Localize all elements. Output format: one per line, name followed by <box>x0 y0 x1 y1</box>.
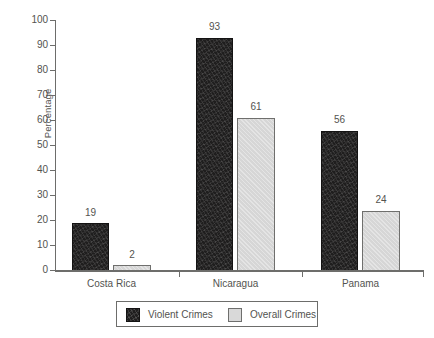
bar-chart: Percentage 100 90 80 70 60 50 40 30 20 1… <box>0 0 434 338</box>
y-axis-tick-label: 50 <box>18 139 48 150</box>
y-axis-tick <box>50 145 56 146</box>
legend-label: Violent Crimes <box>148 309 213 320</box>
x-axis-group-label-panama: Panama <box>321 278 400 289</box>
legend-swatch-light-icon <box>228 308 242 322</box>
bar-nicaragua-overall-crimes[interactable] <box>237 118 275 271</box>
bar-panama-overall-crimes[interactable] <box>362 211 400 271</box>
y-axis-tick-label: 100 <box>18 14 48 25</box>
legend-label: Overall Crimes <box>250 309 316 320</box>
bar-value-label: 93 <box>196 21 233 32</box>
legend-swatch-dark-icon <box>126 308 140 322</box>
y-axis-tick <box>50 70 56 71</box>
bar-value-label: 2 <box>113 249 151 260</box>
legend-item-violent-crimes[interactable]: Violent Crimes <box>126 307 213 322</box>
bar-value-label: 56 <box>321 114 358 125</box>
y-axis-tick-label: 30 <box>18 189 48 200</box>
y-axis-tick-label: 10 <box>18 239 48 250</box>
bar-costa-rica-violent-crimes[interactable] <box>72 223 109 271</box>
y-axis-tick <box>50 195 56 196</box>
y-axis-tick-label: 70 <box>18 89 48 100</box>
y-axis-tick-label: 20 <box>18 214 48 225</box>
bar-value-label: 61 <box>237 101 275 112</box>
y-axis-tick <box>50 220 56 221</box>
x-axis-tick <box>423 271 424 277</box>
y-axis-tick-label: 80 <box>18 64 48 75</box>
bar-value-label: 19 <box>72 207 109 218</box>
x-axis-tick <box>179 271 180 277</box>
y-axis-tick-label: 60 <box>18 114 48 125</box>
y-axis-tick <box>50 20 56 21</box>
y-axis-tick <box>50 45 56 46</box>
x-axis-group-label-costa-rica: Costa Rica <box>72 278 151 289</box>
y-axis-tick <box>50 170 56 171</box>
legend: Violent Crimes Overall Crimes <box>116 301 318 327</box>
y-axis-tick-label: 90 <box>18 39 48 50</box>
legend-item-overall-crimes[interactable]: Overall Crimes <box>228 307 316 322</box>
x-axis-tick <box>302 271 303 277</box>
y-axis-tick-label: 0 <box>18 264 48 275</box>
bar-value-label: 24 <box>362 194 400 205</box>
bar-panama-violent-crimes[interactable] <box>321 131 358 271</box>
y-axis-tick-label: 40 <box>18 164 48 175</box>
y-axis-tick <box>50 95 56 96</box>
x-axis-line <box>55 270 424 272</box>
x-axis-group-label-nicaragua: Nicaragua <box>196 278 275 289</box>
y-axis-tick <box>50 245 56 246</box>
bar-nicaragua-violent-crimes[interactable] <box>196 38 233 271</box>
y-axis-tick <box>50 120 56 121</box>
